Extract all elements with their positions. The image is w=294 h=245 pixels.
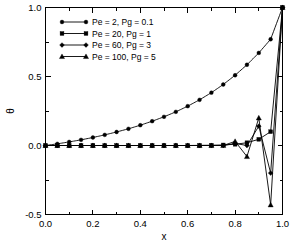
y-axis-ticks <box>46 8 283 215</box>
data-point-marker <box>245 63 249 67</box>
data-point-marker <box>257 51 261 55</box>
data-point-marker <box>269 37 273 41</box>
legend-marker-start <box>60 32 64 36</box>
data-point-marker <box>138 123 142 127</box>
series-line <box>46 8 283 205</box>
data-point-marker <box>233 139 238 144</box>
data-point-marker <box>91 136 95 140</box>
x-axis-ticks <box>46 8 283 215</box>
data-point-marker <box>150 119 154 123</box>
series-2 <box>44 6 285 148</box>
y-tick-label: 0.5 <box>28 71 41 82</box>
legend-label: Pe = 20, Pg = 1 <box>92 29 151 39</box>
data-series-group <box>43 5 285 207</box>
y-tick-label: 1.0 <box>28 2 41 13</box>
legend-marker-start <box>60 20 64 24</box>
series-line <box>46 8 283 146</box>
data-point-marker <box>269 130 273 134</box>
legend-marker-start <box>60 43 65 48</box>
chart-figure: 0.00.20.40.60.81.0 -0.50.00.51.0 x θ Pe … <box>0 0 294 245</box>
x-axis-tick-labels: 0.00.20.40.60.81.0 <box>39 218 289 229</box>
data-point-marker <box>186 104 190 108</box>
data-point-marker <box>115 130 119 134</box>
legend-label: Pe = 100, Pg = 5 <box>92 52 156 62</box>
data-point-marker <box>257 137 261 141</box>
data-point-marker <box>198 98 202 102</box>
x-tick-label: 0.6 <box>181 218 194 229</box>
legend-marker-end <box>84 32 88 36</box>
x-tick-label: 0.2 <box>86 218 99 229</box>
data-point-marker <box>268 202 273 207</box>
data-point-marker <box>221 83 225 87</box>
legend-label: Pe = 2, Pg = 0.1 <box>92 17 154 27</box>
x-axis-title: x <box>162 231 167 242</box>
theta-vs-x-line-chart: 0.00.20.40.60.81.0 -0.50.00.51.0 x θ Pe … <box>0 0 294 245</box>
data-point-marker <box>162 115 166 119</box>
series-4 <box>43 5 285 207</box>
data-point-marker <box>174 110 178 114</box>
series-line <box>46 8 283 174</box>
y-tick-label: -0.5 <box>25 209 41 220</box>
series-line <box>46 8 283 146</box>
y-axis-title: θ <box>5 108 16 114</box>
data-point-marker <box>233 73 237 77</box>
data-point-marker <box>127 127 131 131</box>
legend-label: Pe = 60, Pg = 3 <box>92 40 151 50</box>
x-tick-label: 0.8 <box>228 218 241 229</box>
series-1 <box>44 6 285 148</box>
x-tick-label: 1.0 <box>276 218 289 229</box>
plot-frame <box>46 8 283 215</box>
data-point-marker <box>256 115 261 120</box>
legend-marker-end <box>84 43 89 48</box>
chart-legend: Pe = 2, Pg = 0.1Pe = 20, Pg = 1Pe = 60, … <box>59 17 156 62</box>
data-point-marker <box>79 138 83 142</box>
data-point-marker <box>210 91 214 95</box>
y-axis-tick-labels: -0.50.00.51.0 <box>25 2 41 220</box>
y-tick-label: 0.0 <box>28 140 41 151</box>
legend-marker-end <box>84 20 88 24</box>
x-tick-label: 0.4 <box>134 218 147 229</box>
data-point-marker <box>103 133 107 137</box>
